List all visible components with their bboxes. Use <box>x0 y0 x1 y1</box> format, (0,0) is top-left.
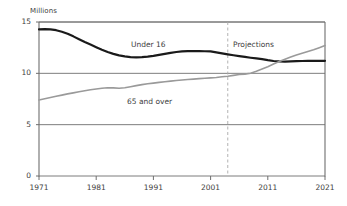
y-tick-label-5: 5 <box>15 120 31 129</box>
chart-container: Millions 051015 197119811991200120112021… <box>0 0 347 206</box>
axis-ticks <box>36 22 325 180</box>
x-tick-label-1981: 1981 <box>76 183 116 192</box>
x-tick-label-2021: 2021 <box>305 183 345 192</box>
y-tick-label-15: 15 <box>15 17 31 26</box>
projections-label: Projections <box>233 40 274 49</box>
gridlines <box>39 22 325 176</box>
x-tick-label-2011: 2011 <box>248 183 288 192</box>
data-series <box>39 29 325 100</box>
x-tick-label-2001: 2001 <box>191 183 231 192</box>
y-tick-label-0: 0 <box>15 171 31 180</box>
series-line-65-and-over <box>39 46 325 100</box>
series-label-65-and-over: 65 and over <box>127 97 172 106</box>
x-tick-label-1971: 1971 <box>19 183 59 192</box>
x-tick-label-1991: 1991 <box>133 183 173 192</box>
y-tick-label-10: 10 <box>15 68 31 77</box>
series-label-under-16: Under 16 <box>131 40 166 49</box>
chart-axes <box>39 22 325 177</box>
series-line-under-16 <box>39 29 325 61</box>
chart-plot-area <box>0 0 347 206</box>
